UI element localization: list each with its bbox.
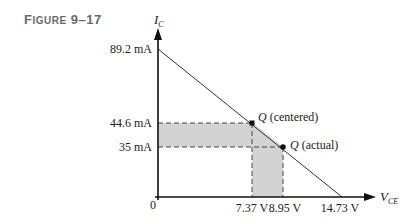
- shade-voltage-band: [252, 147, 283, 197]
- q-actual-label: Q(actual): [290, 138, 338, 152]
- x-tick-7-37: 7.37 V: [236, 201, 269, 215]
- y-axis-label: IC: [153, 12, 164, 29]
- x-tick-14-73: 14.73 V: [321, 201, 360, 215]
- x-tick-8-95: 8.95 V: [269, 201, 302, 215]
- x-axis-arrow-icon: [364, 193, 376, 201]
- x-axis-label: VCE: [380, 189, 398, 206]
- y-tick-89-2: 89.2 mA: [110, 42, 152, 56]
- load-line-diagram: IC VCE 0 89.2 mA 44.6 mA 35 mA 7.37 V 8.…: [0, 0, 416, 223]
- y-axis-arrow-icon: [154, 28, 162, 40]
- q-actual-marker-icon: [280, 144, 286, 150]
- y-tick-44-6: 44.6 mA: [110, 116, 152, 130]
- q-centered-label: Q(centered): [258, 110, 318, 124]
- y-tick-35: 35 mA: [119, 140, 152, 154]
- shade-connector: [252, 123, 283, 147]
- origin-label: 0: [150, 198, 156, 212]
- q-centered-marker-icon: [250, 121, 255, 126]
